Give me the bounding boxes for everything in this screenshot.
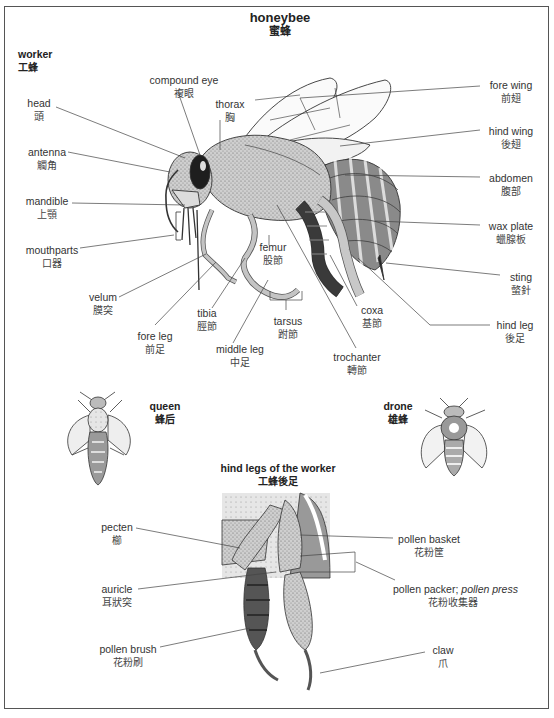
label-mandible: mandible 上顎 <box>22 194 72 222</box>
worker-heading: worker 工蜂 <box>18 47 52 75</box>
label-sting: sting 螫針 <box>503 270 539 298</box>
label-velum: velum 膜突 <box>85 290 121 318</box>
hind-legs-heading: hind legs of the worker 工蜂後足 <box>218 461 338 489</box>
label-trochanter: trochanter 轉節 <box>326 350 388 378</box>
label-wax-plate: wax plate 蠟腺板 <box>483 219 539 247</box>
queen-heading: queen 蜂后 <box>145 399 185 427</box>
label-claw: claw 爪 <box>428 643 458 671</box>
label-tibia: tibia 脛節 <box>190 306 224 334</box>
label-antenna: antenna 觸角 <box>22 145 72 173</box>
label-head: head 頭 <box>22 96 56 124</box>
label-abdomen: abdomen 腹部 <box>483 171 539 199</box>
label-pollen-brush: pollen brush 花粉刷 <box>96 642 160 670</box>
label-pecten: pecten 櫛 <box>95 520 139 548</box>
label-coxa: coxa 基節 <box>355 303 389 331</box>
label-middle-leg: middle leg 中足 <box>210 342 270 370</box>
label-mouthparts: mouthparts 口器 <box>22 243 82 271</box>
label-pollen-packer: pollen packer; pollen press 花粉收集器 <box>393 582 513 610</box>
label-hind-leg: hind leg 後足 <box>490 318 540 346</box>
label-auricle: auricle 耳狀突 <box>95 582 139 610</box>
diagram-title: honeybee 蜜蜂 <box>230 11 330 39</box>
label-fore-wing: fore wing 前翅 <box>483 78 539 106</box>
honeybee-illustration <box>0 0 554 718</box>
title-zh: 蜜蜂 <box>230 25 330 39</box>
label-femur: femur 股節 <box>255 240 291 268</box>
label-thorax: thorax 胸 <box>210 97 250 125</box>
label-tarsus: tarsus 跗節 <box>268 314 308 342</box>
drone-heading: drone 雄蜂 <box>378 399 418 427</box>
hind-leg-inset-drawing <box>222 493 330 690</box>
label-pollen-basket: pollen basket 花粉筐 <box>393 532 465 560</box>
queen-drawing <box>68 392 131 485</box>
drone-drawing <box>421 398 487 476</box>
label-fore-leg: fore leg 前足 <box>130 329 180 357</box>
title-en: honeybee <box>230 11 330 25</box>
label-hind-wing: hind wing 後翅 <box>483 124 539 152</box>
